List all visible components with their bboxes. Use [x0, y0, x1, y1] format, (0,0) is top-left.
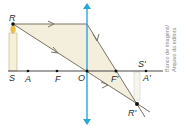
candle-image — [134, 72, 140, 100]
point-A-prime — [145, 70, 148, 73]
lens-arrow-bottom-icon — [83, 119, 91, 125]
ray-diagram: R S A F O F' S' A' R' — [0, 0, 184, 126]
point-R-prime — [135, 102, 139, 106]
label-F-prime: F' — [111, 74, 118, 84]
label-O: O — [78, 73, 85, 83]
credit-line-2: Arquivo da editora — [171, 26, 177, 72]
point-F — [56, 70, 59, 73]
label-A: A — [24, 74, 31, 84]
point-F-prime — [115, 70, 118, 73]
lens-arrow-top-icon — [83, 3, 91, 9]
point-A — [27, 70, 30, 73]
credit-line-1: Banco de imagens/ — [164, 24, 170, 72]
label-S-prime: S' — [138, 59, 146, 69]
label-S: S — [9, 73, 15, 83]
label-F: F — [55, 74, 61, 84]
label-A-prime: A' — [142, 73, 151, 83]
point-O — [86, 70, 89, 73]
label-R-prime: R' — [128, 108, 136, 118]
ray-region-shade — [13, 24, 116, 71]
label-R: R — [9, 13, 16, 23]
image-credit: Banco de imagens/ Arquivo da editora — [161, 4, 183, 74]
candle-object — [9, 33, 17, 71]
